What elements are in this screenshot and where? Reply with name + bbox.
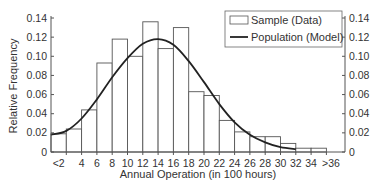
y-tick-label-right: 0.06 — [349, 88, 370, 100]
y-tick-label-left: 0 — [41, 146, 47, 158]
legend-sample-label: Sample (Data) — [251, 14, 322, 26]
y-tick-label-left: 0.08 — [27, 69, 48, 81]
x-tick-label: 32 — [290, 157, 302, 169]
histogram-bar — [66, 129, 81, 152]
y-tick-label-right: 0.12 — [349, 31, 370, 43]
y-tick-label-right: 0.14 — [349, 12, 370, 24]
x-tick-label: <2 — [53, 157, 65, 169]
y-tick-label-left: 0.14 — [27, 12, 48, 24]
x-tick-label: 8 — [109, 157, 115, 169]
y-tick-label-right: 0.04 — [349, 107, 370, 119]
histogram-bar — [189, 92, 204, 152]
histogram-bar — [235, 132, 250, 152]
histogram-bar — [311, 148, 326, 152]
legend-population-label: Population (Model) — [251, 31, 343, 43]
histogram-bar — [219, 120, 234, 152]
y-tick-label-left: 0.04 — [27, 107, 48, 119]
x-tick-label: 4 — [79, 157, 85, 169]
y-tick-label-right: 0.10 — [349, 50, 370, 62]
histogram-chart: 000.020.020.040.040.060.060.080.080.100.… — [0, 0, 381, 184]
y-tick-label-left: 0.12 — [27, 31, 48, 43]
y-tick-label-left: 0.10 — [27, 50, 48, 62]
y-tick-label-right: 0.02 — [349, 126, 370, 138]
legend-sample-swatch-icon — [230, 16, 248, 24]
legend: Sample (Data) Population (Model) — [225, 11, 343, 47]
histogram-bar — [128, 56, 143, 152]
x-tick-label: 30 — [275, 157, 287, 169]
x-tick-label: >36 — [322, 157, 340, 169]
y-tick-label-right: 0.08 — [349, 69, 370, 81]
y-tick-label-left: 0.06 — [27, 88, 48, 100]
histogram-bar — [158, 49, 173, 152]
x-tick-label: 6 — [94, 157, 100, 169]
histogram-bar — [51, 134, 66, 152]
histogram-bar — [97, 63, 112, 152]
histogram-bar — [204, 96, 219, 153]
histogram-bar — [296, 148, 311, 152]
histogram-bar — [143, 22, 158, 152]
x-tick-label: 34 — [305, 157, 317, 169]
y-tick-label-right: 0 — [349, 146, 355, 158]
histogram-bar — [112, 39, 127, 152]
y-tick-label-left: 0.02 — [27, 126, 48, 138]
y-axis-title: Relative Frequency — [7, 38, 19, 133]
x-axis-title: Annual Operation (in 100 hours) — [120, 168, 277, 180]
